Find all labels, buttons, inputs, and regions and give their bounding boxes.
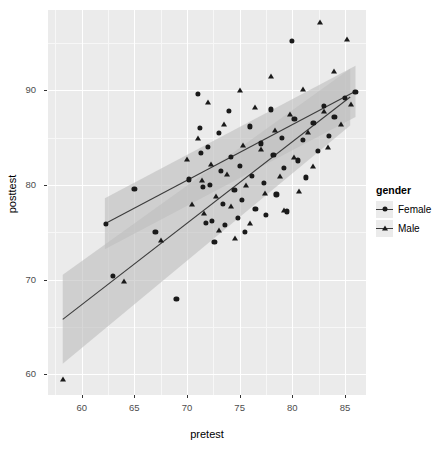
- data-point-male: [331, 69, 337, 74]
- triangle-icon: [382, 226, 388, 231]
- x-tick-mark: [345, 395, 346, 398]
- data-point-male: [291, 154, 297, 159]
- data-point-male: [189, 201, 195, 206]
- plot-panel: [48, 10, 366, 395]
- data-point-male: [184, 156, 190, 161]
- legend-item-female[interactable]: Female: [376, 200, 446, 218]
- data-point-male: [240, 143, 246, 148]
- y-tick-label: 60: [8, 368, 36, 379]
- y-axis-title: posttest: [6, 154, 18, 234]
- data-point-male: [121, 279, 127, 284]
- data-point-male: [228, 203, 234, 208]
- x-tick-mark: [240, 395, 241, 398]
- x-tick-mark: [187, 395, 188, 398]
- y-tick-mark: [44, 374, 47, 375]
- data-point-male: [221, 121, 227, 126]
- x-tick-label: 70: [172, 402, 202, 413]
- data-point-male: [287, 112, 293, 117]
- x-tick-label: 65: [119, 402, 149, 413]
- data-point-male: [195, 135, 201, 140]
- data-point-male: [268, 74, 274, 79]
- data-point-male: [277, 173, 283, 178]
- legend-item-male[interactable]: Male: [376, 219, 446, 237]
- data-point-male: [232, 235, 238, 240]
- data-point-male: [205, 99, 211, 104]
- x-tick-label: 75: [225, 402, 255, 413]
- legend-key-male: [376, 220, 393, 237]
- regression-lines: [48, 10, 366, 395]
- legend-label: Female: [398, 204, 431, 215]
- legend-label: Male: [398, 223, 420, 234]
- data-point-male: [208, 162, 214, 167]
- data-point-male: [281, 207, 287, 212]
- data-point-male: [300, 86, 306, 91]
- legend-title: gender: [376, 184, 446, 196]
- data-point-male: [213, 194, 219, 199]
- data-point-male: [224, 171, 230, 176]
- x-tick-label: 60: [67, 402, 97, 413]
- y-tick-label: 70: [8, 274, 36, 285]
- data-point-male: [258, 147, 264, 152]
- data-point-male: [310, 164, 316, 169]
- data-point-male: [296, 188, 302, 193]
- x-tick-label: 80: [277, 402, 307, 413]
- data-point-male: [199, 178, 205, 183]
- circle-icon: [382, 207, 387, 212]
- legend-items: FemaleMale: [376, 200, 446, 237]
- data-point-male: [325, 145, 331, 150]
- data-point-male: [243, 183, 249, 188]
- x-tick-mark: [292, 395, 293, 398]
- x-tick-mark: [134, 395, 135, 398]
- x-axis-title: pretest: [48, 428, 366, 440]
- scatter-plot-figure: 60708090 606570758085 posttest pretest g…: [0, 0, 448, 454]
- data-point-male: [247, 220, 253, 225]
- y-tick-mark: [44, 280, 47, 281]
- y-tick-mark: [44, 90, 47, 91]
- data-point-male: [216, 228, 222, 233]
- y-tick-label: 90: [8, 84, 36, 95]
- legend: gender FemaleMale: [376, 184, 446, 238]
- x-tick-label: 85: [330, 402, 360, 413]
- data-point-male: [237, 88, 243, 93]
- data-point-male: [252, 105, 258, 110]
- data-point-male: [262, 190, 268, 195]
- data-point-male: [344, 37, 350, 42]
- data-point-male: [348, 101, 354, 106]
- x-tick-mark: [82, 395, 83, 398]
- data-point-male: [305, 130, 311, 135]
- data-point-male: [338, 122, 344, 127]
- data-point-male: [158, 237, 164, 242]
- data-point-male: [317, 20, 323, 25]
- legend-key-female: [376, 201, 393, 218]
- data-point-male: [272, 128, 278, 133]
- y-tick-mark: [44, 185, 47, 186]
- data-point-male: [60, 376, 66, 381]
- data-point-male: [321, 109, 327, 114]
- data-point-male: [201, 211, 207, 216]
